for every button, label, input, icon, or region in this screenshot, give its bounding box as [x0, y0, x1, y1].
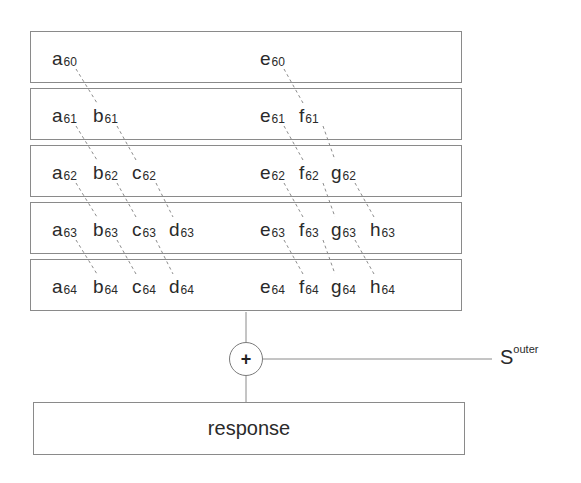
variable-subscript: 61	[64, 112, 77, 126]
variable-letter: e	[260, 105, 271, 126]
variable-label: f62	[299, 163, 319, 182]
variable-letter: b	[93, 276, 104, 297]
variable-label: e61	[260, 106, 285, 125]
side-input-base: S	[500, 346, 513, 368]
variable-label: d64	[169, 277, 194, 296]
variable-letter: g	[331, 162, 342, 183]
variable-letter: g	[331, 219, 342, 240]
variable-label: a64	[52, 277, 77, 296]
variable-subscript: 64	[181, 283, 194, 297]
variable-subscript: 64	[305, 283, 318, 297]
variable-label: a60	[52, 49, 77, 68]
variable-letter: e	[260, 276, 271, 297]
variable-label: e63	[260, 220, 285, 239]
variable-subscript: 63	[343, 226, 356, 240]
variable-label: f64	[299, 277, 319, 296]
variable-label: a61	[52, 106, 77, 125]
sum-node: +	[229, 342, 263, 376]
variable-label: d63	[169, 220, 194, 239]
variable-letter: e	[260, 162, 271, 183]
variable-subscript: 63	[272, 226, 285, 240]
variable-label: f63	[299, 220, 319, 239]
variable-subscript: 63	[105, 226, 118, 240]
variable-letter: e	[260, 48, 271, 69]
variable-subscript: 63	[305, 226, 318, 240]
variable-label: c63	[132, 220, 156, 239]
response-box: response	[33, 402, 465, 455]
variable-subscript: 64	[143, 283, 156, 297]
plus-icon: +	[241, 350, 252, 368]
variable-subscript: 63	[143, 226, 156, 240]
variable-letter: b	[93, 162, 104, 183]
variable-label: h64	[370, 277, 395, 296]
variable-subscript: 61	[305, 112, 318, 126]
variable-subscript: 63	[64, 226, 77, 240]
variable-letter: h	[370, 276, 381, 297]
variable-label: f61	[299, 106, 319, 125]
side-input-sup: outer	[513, 343, 538, 355]
variable-letter: b	[93, 105, 104, 126]
variable-letter: a	[52, 162, 63, 183]
variable-label: g64	[331, 277, 356, 296]
side-input-label: Souter	[500, 346, 538, 369]
variable-subscript: 62	[105, 169, 118, 183]
variable-subscript: 61	[272, 112, 285, 126]
variable-label: c62	[132, 163, 156, 182]
variable-subscript: 64	[382, 283, 395, 297]
variable-subscript: 62	[305, 169, 318, 183]
variable-label: b63	[93, 220, 118, 239]
variable-letter: c	[132, 219, 142, 240]
response-label: response	[208, 417, 290, 440]
variable-subscript: 60	[272, 55, 285, 69]
variable-letter: f	[299, 162, 304, 183]
variable-subscript: 64	[272, 283, 285, 297]
variable-letter: h	[370, 219, 381, 240]
variable-subscript: 60	[64, 55, 77, 69]
variable-subscript: 63	[382, 226, 395, 240]
variable-letter: d	[169, 276, 180, 297]
variable-label: e60	[260, 49, 285, 68]
variable-letter: a	[52, 219, 63, 240]
variable-label: b62	[93, 163, 118, 182]
variable-letter: c	[132, 162, 142, 183]
variable-subscript: 62	[272, 169, 285, 183]
variable-label: b61	[93, 106, 118, 125]
variable-subscript: 62	[343, 169, 356, 183]
variable-label: a63	[52, 220, 77, 239]
variable-label: a62	[52, 163, 77, 182]
variable-subscript: 64	[105, 283, 118, 297]
variable-letter: d	[169, 219, 180, 240]
variable-subscript: 62	[143, 169, 156, 183]
variable-subscript: 63	[181, 226, 194, 240]
variable-letter: a	[52, 105, 63, 126]
variable-label: h63	[370, 220, 395, 239]
variable-label: e64	[260, 277, 285, 296]
variable-letter: c	[132, 276, 142, 297]
variable-subscript: 64	[343, 283, 356, 297]
variable-letter: e	[260, 219, 271, 240]
variable-label: e62	[260, 163, 285, 182]
variable-label: g62	[331, 163, 356, 182]
variable-letter: f	[299, 105, 304, 126]
variable-label: g63	[331, 220, 356, 239]
variable-letter: f	[299, 219, 304, 240]
variable-letter: b	[93, 219, 104, 240]
row-box	[30, 31, 462, 83]
variable-label: b64	[93, 277, 118, 296]
variable-subscript: 61	[105, 112, 118, 126]
variable-letter: g	[331, 276, 342, 297]
variable-letter: a	[52, 48, 63, 69]
variable-subscript: 64	[64, 283, 77, 297]
variable-subscript: 62	[64, 169, 77, 183]
variable-letter: a	[52, 276, 63, 297]
variable-letter: f	[299, 276, 304, 297]
variable-label: c64	[132, 277, 156, 296]
